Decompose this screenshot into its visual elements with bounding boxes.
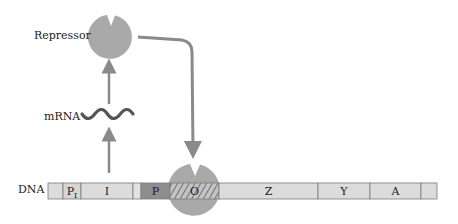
dna-segment-y: Y xyxy=(318,183,370,199)
dna-segment-tail xyxy=(421,183,437,199)
mrna-label: mRNA xyxy=(44,110,80,123)
dna-segment-i: I xyxy=(81,183,133,199)
free-repressor-icon xyxy=(88,15,132,59)
dna-segment-label: Z xyxy=(265,185,273,198)
dna-segment-p: P xyxy=(141,183,170,199)
dna-segment-lead xyxy=(48,183,63,199)
dna-segment-label: I xyxy=(105,185,109,198)
repressor-binding-arrow xyxy=(138,37,193,150)
dna-segment-label: P xyxy=(152,185,160,198)
mrna-wave-icon xyxy=(82,110,133,119)
dna-label: DNA xyxy=(18,183,44,196)
dna-segment-label: A xyxy=(391,185,401,198)
repressor-label: Repressor xyxy=(34,29,91,42)
dna-segment-gap xyxy=(133,183,141,199)
dna-segment-a: A xyxy=(370,183,421,199)
dna-bar: PIIPOZYA xyxy=(48,183,437,200)
dna-segment-z: Z xyxy=(219,183,318,199)
dna-segment-label: O xyxy=(190,185,199,198)
dna-segment-pi: PI xyxy=(63,183,81,200)
dna-segment-o: O xyxy=(170,183,219,199)
dna-segment-label: Y xyxy=(339,185,348,198)
